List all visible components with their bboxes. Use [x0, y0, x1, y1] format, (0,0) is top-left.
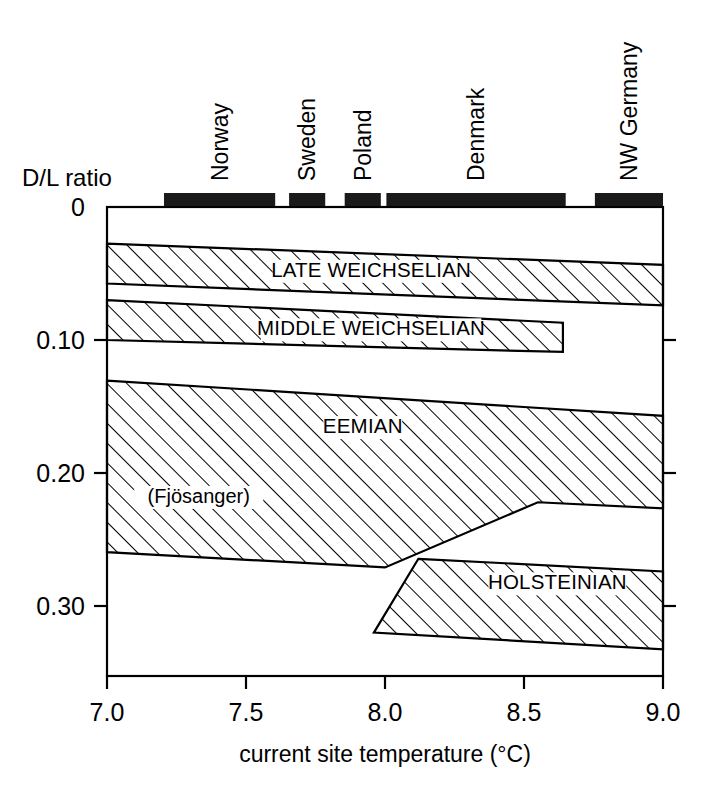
xtick-label-8.0: 8.0 [368, 698, 403, 726]
ytick-label-0.20: 0.20 [36, 459, 85, 487]
band-sublabel-eemian: (Fjösanger) [148, 485, 250, 507]
band-label-eemian: EEMIAN [323, 414, 403, 437]
dl-ratio-chart: LATE WEICHSELIANMIDDLE WEICHSELIANEEMIAN… [0, 0, 711, 786]
xtick-label-9.0: 9.0 [646, 698, 681, 726]
region-label-denmark: Denmark [463, 87, 489, 181]
coverage-bar-norway [164, 193, 275, 206]
band-eemian [107, 381, 663, 568]
xtick-label-7.0: 7.0 [90, 698, 125, 726]
figure-root: LATE WEICHSELIANMIDDLE WEICHSELIANEEMIAN… [0, 0, 711, 786]
region-label-nw-germany: NW Germany [616, 41, 642, 181]
xtick-label-7.5: 7.5 [229, 698, 264, 726]
coverage-bar-nw-germany [595, 193, 663, 206]
band-label-holsteinian: HOLSTEINIAN [488, 570, 627, 593]
coverage-bar-poland [345, 193, 381, 206]
x-axis-title: current site temperature (°C) [239, 741, 531, 767]
y-axis-title: D/L ratio [22, 164, 112, 191]
region-label-poland: Poland [350, 109, 376, 181]
coverage-bars-layer [164, 193, 663, 206]
region-label-sweden: Sweden [294, 98, 320, 181]
ytick-label-0.30: 0.30 [36, 592, 85, 620]
coverage-bar-sweden [289, 193, 325, 206]
xtick-label-8.5: 8.5 [507, 698, 542, 726]
band-label-middle-weichselian: MIDDLE WEICHSELIAN [257, 316, 485, 339]
region-label-norway: Norway [207, 103, 233, 181]
ytick-label-0.10: 0.10 [36, 326, 85, 354]
ytick-label-0: 0 [71, 193, 85, 221]
band-label-late-weichselian: LATE WEICHSELIAN [271, 258, 471, 281]
coverage-bar-denmark [386, 193, 565, 206]
